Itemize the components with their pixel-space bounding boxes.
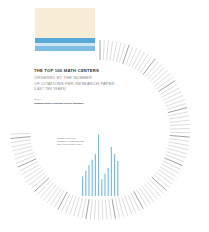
source-label: Source:: [34, 98, 42, 100]
chart-note: Number of papers published in listed jou…: [57, 137, 85, 146]
radial-chart: [0, 0, 209, 232]
subtitle-2: OF CITATIONS PER RESEARCH PAPER: [34, 81, 115, 86]
subtitle-1: ORDERED BY THE NUMBER: [34, 75, 92, 80]
source: Thomson Reuters, Essential Science Indic…: [34, 102, 83, 104]
chart-title: THE TOP 100 MATH CENTERS: [34, 68, 99, 73]
subtitle-3: (LAST TEN YEARS): [34, 87, 66, 91]
